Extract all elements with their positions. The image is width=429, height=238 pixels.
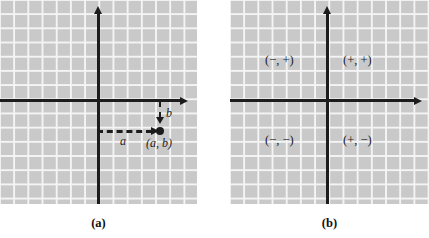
panel-b-graph: (−, +) (+, +) (−, −) (+, −) [230, 0, 429, 204]
panel-b-y-axis [326, 14, 329, 204]
panel-b-quadrant-4-label: (+, −) [343, 133, 372, 148]
panel-b-quadrant-2-label: (−, +) [265, 53, 294, 68]
panel-a-horizontal-dashed-segment [97, 130, 152, 133]
panel-a-x-axis-arrow-icon [180, 97, 188, 105]
panel-a-vertical-dashed-segment [159, 101, 161, 118]
panel-a-point-coordinate-label: (a, b) [146, 136, 172, 151]
panel-a-y-distance-label: b [166, 106, 172, 121]
panel-a-vertical-dash-arrow-icon [156, 117, 164, 124]
panel-b-caption: (b) [230, 216, 429, 231]
panel-b-y-axis-arrow-icon [323, 6, 331, 14]
panel-a-y-axis [97, 14, 100, 204]
panel-a-y-axis-arrow-icon [94, 6, 102, 14]
panel-b-x-axis [230, 99, 416, 102]
panel-b-x-axis-arrow-icon [414, 97, 422, 105]
panel-a-x-axis [0, 99, 182, 102]
panel-a-plotted-point [156, 127, 164, 135]
panel-a-caption: (a) [0, 216, 197, 231]
panel-b-quadrant-3-label: (−, −) [265, 133, 294, 148]
panel-b-quadrant-1-label: (+, +) [343, 53, 372, 68]
panel-a-x-distance-label: a [120, 134, 126, 149]
panel-a-graph: a b (a, b) [0, 0, 197, 204]
coordinate-plane-figure: a b (a, b) (−, +) (+, +) (−, −) (+, −) (… [0, 0, 429, 238]
